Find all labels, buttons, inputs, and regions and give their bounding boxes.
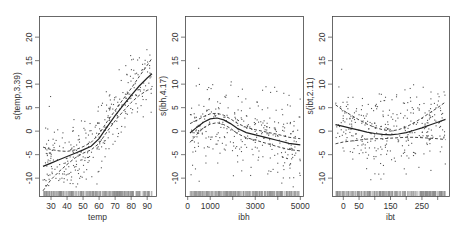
residual-point xyxy=(210,139,211,140)
residual-point xyxy=(79,168,80,169)
residual-point xyxy=(65,169,66,170)
residual-point xyxy=(436,107,437,108)
residual-point xyxy=(286,158,287,159)
residual-point xyxy=(45,180,46,181)
residual-point xyxy=(208,87,209,88)
residual-point xyxy=(54,147,55,148)
residual-point xyxy=(198,68,199,69)
residual-point xyxy=(300,99,301,100)
residual-point xyxy=(274,87,275,88)
residual-point xyxy=(137,108,138,109)
residual-point xyxy=(79,178,80,179)
residual-point xyxy=(356,138,357,139)
residual-point xyxy=(434,120,435,121)
residual-point xyxy=(385,147,386,148)
residual-point xyxy=(195,151,196,152)
residual-point xyxy=(149,77,150,78)
residual-point xyxy=(138,74,139,75)
y-tick-label: -10 xyxy=(24,172,34,185)
residual-point xyxy=(383,173,384,174)
residual-point xyxy=(373,126,374,127)
x-axis-label: temp xyxy=(88,212,107,222)
residual-point xyxy=(241,110,242,111)
residual-point xyxy=(376,108,377,109)
residual-point xyxy=(230,85,231,86)
residual-point xyxy=(231,81,232,82)
residual-point xyxy=(136,95,137,96)
panel-ibt: -10-505101520s(ibt,2.11)050150250ibt xyxy=(305,17,450,223)
residual-point xyxy=(271,149,272,150)
residual-point xyxy=(117,128,118,129)
residual-point xyxy=(352,159,353,160)
residual-point xyxy=(290,123,291,124)
residual-point xyxy=(218,107,219,108)
residual-point xyxy=(135,73,136,74)
residual-point xyxy=(198,146,199,147)
residual-point xyxy=(141,70,142,71)
residual-point xyxy=(121,126,122,127)
residual-point xyxy=(265,86,266,87)
residual-point xyxy=(233,146,234,147)
residual-point xyxy=(127,114,128,115)
residual-point xyxy=(283,165,284,166)
residual-point xyxy=(113,104,114,105)
residual-point xyxy=(131,112,132,113)
residual-point xyxy=(379,93,380,94)
residual-point xyxy=(430,139,431,140)
residual-point xyxy=(116,121,117,122)
residual-point xyxy=(90,123,91,124)
residual-point xyxy=(63,147,64,148)
residual-point xyxy=(97,148,98,149)
residual-point xyxy=(220,103,221,104)
x-tick-label: 1000 xyxy=(201,201,220,211)
residual-point xyxy=(347,104,348,105)
residual-point xyxy=(425,112,426,113)
residual-point xyxy=(361,144,362,145)
residual-point xyxy=(69,173,70,174)
residual-point xyxy=(134,87,135,88)
residual-point xyxy=(224,149,225,150)
residual-point xyxy=(378,148,379,149)
residual-point xyxy=(442,129,443,130)
residual-point xyxy=(109,119,110,120)
residual-point xyxy=(291,148,292,149)
residual-point xyxy=(370,122,371,123)
residual-point xyxy=(427,122,428,123)
residual-point xyxy=(237,119,238,120)
residual-point xyxy=(142,64,143,65)
residual-point xyxy=(252,154,253,155)
residual-point xyxy=(432,137,433,138)
residual-point xyxy=(435,121,436,122)
x-axis: 30405060708090temp xyxy=(46,196,152,222)
residual-point xyxy=(212,136,213,137)
residual-point xyxy=(194,141,195,142)
residual-point xyxy=(299,173,300,174)
residual-point xyxy=(430,98,431,99)
y-tick-label: 10 xyxy=(317,79,327,89)
residual-point xyxy=(54,132,55,133)
residual-point xyxy=(97,123,98,124)
residual-point xyxy=(412,107,413,108)
residual-point xyxy=(282,114,283,115)
residual-point xyxy=(441,146,442,147)
residual-point xyxy=(427,144,428,145)
residual-point xyxy=(53,159,54,160)
residual-point xyxy=(367,142,368,143)
residual-point xyxy=(359,153,360,154)
residual-point xyxy=(282,126,283,127)
residual-point xyxy=(51,154,52,155)
residual-point xyxy=(117,136,118,137)
residual-point xyxy=(391,116,392,117)
residual-point xyxy=(62,137,63,138)
residual-point xyxy=(72,151,73,152)
residual-point xyxy=(396,96,397,97)
residual-point xyxy=(48,140,49,141)
residual-point xyxy=(267,123,268,124)
x-tick-label: 90 xyxy=(142,201,152,211)
residual-point xyxy=(132,109,133,110)
residual-point xyxy=(57,166,58,167)
residual-point xyxy=(228,107,229,108)
residual-point xyxy=(133,59,134,60)
residual-point xyxy=(130,98,131,99)
rug xyxy=(336,191,446,196)
